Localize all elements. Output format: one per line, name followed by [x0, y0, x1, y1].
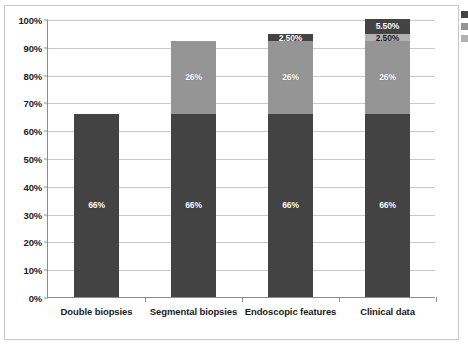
bar-segment[interactable]: 5.50%	[365, 19, 410, 34]
bar-column[interactable]: 66%	[74, 114, 119, 297]
y-axis-tick-label: 20%	[24, 237, 42, 248]
bar-segment-value-label: 26%	[185, 73, 202, 82]
x-axis-tick-mark	[242, 297, 243, 302]
y-axis-tick-label: 50%	[24, 154, 42, 165]
bar-segment[interactable]: 66%	[171, 114, 216, 297]
x-axis-tick-mark	[436, 297, 437, 302]
legend-item[interactable]	[461, 22, 468, 31]
bar-segment-value-label: 26%	[379, 73, 396, 82]
bar-segment[interactable]: 26%	[268, 41, 313, 113]
y-axis-tick-mark	[44, 186, 48, 187]
y-axis-tick-mark	[44, 242, 48, 243]
y-axis-tick-label: 0%	[29, 293, 42, 304]
legend-color-swatch	[461, 35, 468, 42]
bar-segment[interactable]: 2.50%	[268, 34, 313, 41]
y-axis-tick-mark	[44, 47, 48, 48]
bar-segment[interactable]: 66%	[268, 114, 313, 297]
bar-segment[interactable]: 26%	[171, 41, 216, 113]
bar-segment[interactable]: 2.50%	[365, 34, 410, 41]
bar-segment-value-label: 26%	[282, 73, 299, 82]
legend-item[interactable]	[461, 10, 468, 19]
bar-segment-value-label: 66%	[185, 201, 202, 210]
bar-segment-value-label: 66%	[88, 201, 105, 210]
bar-segment-value-label: 2.50%	[279, 34, 303, 43]
legend-item[interactable]	[461, 34, 468, 43]
legend-color-swatch	[461, 23, 468, 30]
y-axis-tick-label: 80%	[24, 70, 42, 81]
bar-segment-value-label: 2.50%	[376, 34, 400, 43]
y-axis-tick-mark	[44, 131, 48, 132]
chart-figure: 0%10%20%30%40%50%60%70%80%90%100% 66%66%…	[0, 0, 468, 347]
y-axis-tick-label: 40%	[24, 181, 42, 192]
y-axis-tick-mark	[44, 214, 48, 215]
y-axis-tick-label: 100%	[19, 15, 43, 26]
bar-segment-value-label: 5.50%	[376, 22, 400, 31]
bar-column[interactable]: 66%26%2.50%5.50%	[365, 19, 410, 297]
y-axis-tick-mark	[44, 75, 48, 76]
y-axis-tick-label: 70%	[24, 98, 42, 109]
y-axis-tick-mark	[44, 298, 48, 299]
plot-area: 0%10%20%30%40%50%60%70%80%90%100% 66%66%…	[47, 20, 435, 298]
plot-wrapper: 0%10%20%30%40%50%60%70%80%90%100% 66%66%…	[47, 20, 435, 298]
x-axis-tick-mark	[145, 297, 146, 302]
legend-color-swatch	[461, 11, 468, 18]
chart-legend	[461, 10, 468, 46]
y-axis-tick-mark	[44, 103, 48, 104]
bar-column[interactable]: 66%26%	[171, 41, 216, 297]
bar-segment[interactable]: 66%	[74, 114, 119, 297]
bar-segment[interactable]: 66%	[365, 114, 410, 297]
y-axis-tick-label: 90%	[24, 42, 42, 53]
y-axis-tick-label: 10%	[24, 265, 42, 276]
y-axis-tick-label: 30%	[24, 209, 42, 220]
bar-segment[interactable]: 26%	[365, 41, 410, 113]
y-axis-tick-label: 60%	[24, 126, 42, 137]
y-axis-tick-mark	[44, 20, 48, 21]
bar-column[interactable]: 66%26%2.50%	[268, 34, 313, 297]
bar-segment-value-label: 66%	[379, 201, 396, 210]
y-axis-tick-mark	[44, 270, 48, 271]
x-axis-category-label: Clinical data	[328, 306, 448, 318]
y-axis-tick-mark	[44, 159, 48, 160]
bar-segment-value-label: 66%	[282, 201, 299, 210]
x-axis-tick-mark	[339, 297, 340, 302]
